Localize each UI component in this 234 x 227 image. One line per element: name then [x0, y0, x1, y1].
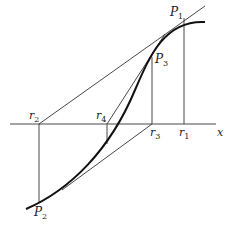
label-p3: P3 — [154, 52, 168, 68]
label-r4: r4 — [96, 109, 106, 124]
diagram-canvas: P1 P3 P2 r2 r4 r3 r1 x — [0, 0, 234, 227]
label-p2: P2 — [33, 205, 47, 221]
label-p1: P1 — [169, 5, 183, 21]
label-x-axis: x — [217, 126, 224, 139]
function-curve — [26, 22, 205, 209]
label-r2: r2 — [29, 109, 39, 124]
tangent-line-p1-r2 — [39, 6, 205, 124]
label-r1: r1 — [179, 126, 189, 141]
label-r3: r3 — [150, 126, 160, 141]
